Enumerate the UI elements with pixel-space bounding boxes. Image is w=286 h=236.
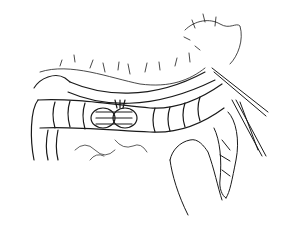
colon-upper — [34, 72, 215, 103]
colon-lower — [31, 84, 224, 160]
surgical-illustration — [0, 0, 286, 236]
omentum — [40, 14, 241, 85]
surgical-instruments — [212, 68, 268, 156]
mesentery-vessels — [75, 140, 147, 160]
surgeon-hand — [170, 140, 222, 215]
illustration-canvas — [0, 0, 286, 236]
